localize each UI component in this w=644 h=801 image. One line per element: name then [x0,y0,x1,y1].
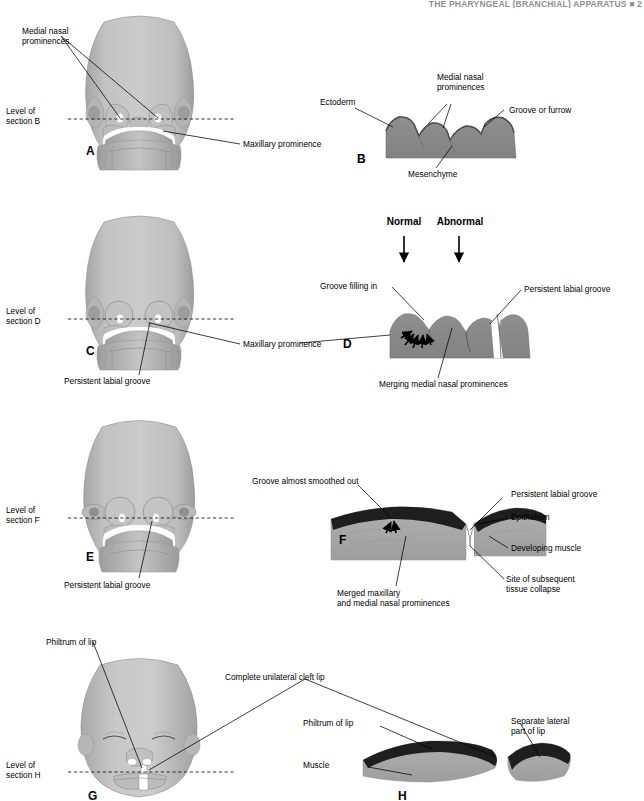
panel-letter-a: A [86,144,95,158]
panel-d-illustration [300,236,530,378]
label-separate-lateral-part-of-lip: Separate lateral part of lip [511,716,570,736]
figure-cleft-lip-development: THE PHARYNGEAL (BRANCHIAL) APPARATUS ■ 2 [0,0,644,801]
label-groove-or-furrow: Groove or furrow [509,105,571,115]
label-maxillary-prominence-a: Maxillary prominence [243,139,321,149]
label-persistent-labial-groove-f: Persistent labial groove [511,489,597,499]
panel-letter-c: C [86,344,95,358]
label-philtrum-of-lip-h: Philtrum of lip [303,718,353,728]
label-merged-maxillary-and-medial-nasal-prominences: Merged maxillary and medial nasal promin… [337,588,450,608]
label-ectoderm: Ectoderm [320,97,356,107]
panel-letter-e: E [86,550,94,564]
label-persistent-labial-groove-e: Persistent labial groove [64,580,150,590]
panel-letter-f: F [339,533,346,547]
label-groove-filling-in: Groove filling in [320,281,377,291]
panel-f-illustration [331,485,546,586]
label-complete-unilateral-cleft-lip: Complete unilateral cleft lip [225,672,325,682]
label-merging-medial-nasal-prominences: Merging medial nasal prominences [379,379,508,389]
label-mesenchyme: Mesenchyme [408,169,457,179]
label-level-of-section-b: Level of section B [6,106,40,126]
label-maxillary-prominence-c: Maxillary prominence [243,339,321,349]
heading-abnormal: Abnormal [421,217,499,227]
label-medial-nasal-prominences-a: Medial nasal prominences [22,26,70,46]
label-persistent-labial-groove-c: Persistent labial groove [64,376,150,386]
panel-letter-h: H [398,789,407,801]
label-medial-nasal-prominences-b: Medial nasal prominences [437,72,485,92]
label-level-of-section-f: Level of section F [6,505,40,525]
panel-letter-g: G [88,789,97,801]
label-level-of-section-d: Level of section D [6,306,41,326]
panel-g-illustration [68,642,305,797]
label-philtrum-of-lip-g: Philtrum of lip [46,637,96,647]
label-site-of-subsequent-tissue-collapse: Site of subsequent tissue collapse [506,574,575,594]
panel-letter-d: D [343,337,352,351]
panel-letter-b: B [357,152,366,166]
label-level-of-section-h: Level of section H [6,760,41,780]
label-muscle: Muscle [303,760,329,770]
label-epithelium: Epithelium [511,512,550,522]
label-developing-muscle: Developing muscle [511,543,581,553]
label-persistent-labial-groove-d: Persistent labial groove [524,284,610,294]
label-groove-almost-smoothed-out: Groove almost smoothed out [252,476,359,486]
panel-b-illustration [355,104,516,168]
